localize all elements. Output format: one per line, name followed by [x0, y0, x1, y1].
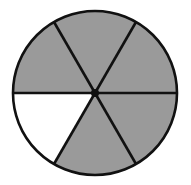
center-dot — [91, 89, 99, 97]
fraction-circle — [0, 0, 191, 185]
